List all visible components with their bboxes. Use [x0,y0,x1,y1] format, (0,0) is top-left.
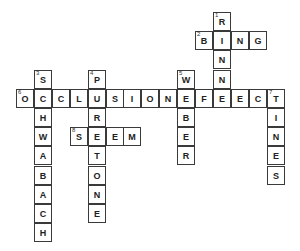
cell-letter: L [76,94,82,104]
cell-letter: O [146,94,153,104]
cell-letter: B [40,171,47,181]
crossword-cell[interactable]: S8 [70,127,88,146]
crossword-cell[interactable]: I [267,108,285,127]
crossword-cell[interactable]: N [231,31,249,50]
crossword-cell[interactable]: O6 [16,89,34,108]
crossword-cell[interactable]: I [213,31,231,50]
cell-letter: P [94,75,100,85]
crossword-cell[interactable]: N [213,50,231,69]
cell-letter: S [76,132,82,142]
crossword-cell[interactable]: S [267,166,285,185]
cell-letter: N [219,55,226,65]
cell-letter: C [58,94,65,104]
crossword-cell[interactable]: U [88,89,106,108]
crossword-cell[interactable]: B [34,166,52,185]
crossword-cell[interactable]: L [70,89,88,108]
cell-letter: H [40,228,47,238]
cell-letter: R [219,17,226,27]
crossword-cell[interactable]: W [34,127,52,146]
cell-letter: A [40,151,47,161]
clue-number: 7 [269,89,272,95]
crossword-cell[interactable]: E [88,204,106,223]
crossword-cell[interactable]: E [177,127,195,146]
clue-number: 3 [36,70,39,76]
crossword-cell[interactable]: E [267,146,285,165]
cell-letter: S [40,75,46,85]
cell-letter: S [112,94,118,104]
crossword-cell[interactable]: N [88,185,106,204]
cell-letter: C [255,94,262,104]
crossword-cell[interactable]: W5 [177,70,195,89]
crossword-cell[interactable]: E [231,89,249,108]
cell-letter: N [273,132,280,142]
cell-letter: R [183,151,190,161]
clue-number: 8 [72,127,75,133]
cell-letter: I [275,113,278,123]
cell-letter: T [94,151,100,161]
cell-letter: G [254,36,261,46]
cell-letter: N [237,36,244,46]
cell-letter: C [40,94,47,104]
cell-letter: M [128,132,136,142]
cell-letter: B [183,113,190,123]
cell-letter: I [221,36,224,46]
cell-letter: S [273,171,279,181]
cell-letter: W [39,132,48,142]
crossword-cell[interactable]: R [177,146,195,165]
crossword-cell[interactable]: C [34,204,52,223]
crossword-cell[interactable]: H [34,223,52,242]
cell-letter: N [165,94,172,104]
crossword-cell[interactable]: S3 [34,70,52,89]
cell-letter: O [93,171,100,181]
cell-letter: N [94,190,101,200]
crossword-cell[interactable]: E [177,89,195,108]
crossword-cell[interactable]: I [123,89,141,108]
cell-letter: O [21,94,28,104]
crossword-cell[interactable]: S [106,89,124,108]
crossword-cell[interactable]: R [88,108,106,127]
clue-number: 5 [179,70,182,76]
cell-letter: A [40,190,47,200]
crossword-cell[interactable]: F [195,89,213,108]
crossword-grid: R1INNEB2NGS3CHWABACHP4URETONEW5EBERO6CLS… [0,0,300,251]
crossword-cell[interactable]: B2 [195,31,213,50]
crossword-cell[interactable]: E [213,89,231,108]
cell-letter: R [94,113,101,123]
crossword-cell[interactable]: C [34,89,52,108]
crossword-cell[interactable]: T7 [267,89,285,108]
clue-number: 4 [90,70,93,76]
crossword-cell[interactable]: H [34,108,52,127]
crossword-cell[interactable]: R1 [213,12,231,31]
crossword-cell[interactable]: O [141,89,159,108]
crossword-cell[interactable]: B [177,108,195,127]
crossword-cell[interactable]: N [267,127,285,146]
cell-letter: B [201,36,208,46]
crossword-cell[interactable]: A [34,185,52,204]
crossword-cell[interactable]: E [88,127,106,146]
crossword-cell[interactable]: O [88,166,106,185]
cell-letter: E [183,94,189,104]
crossword-cell[interactable]: M [123,127,141,146]
cell-letter: E [94,209,100,219]
cell-letter: C [40,209,47,219]
crossword-cell[interactable]: C [249,89,267,108]
cell-letter: E [237,94,243,104]
crossword-cell[interactable]: N [159,89,177,108]
clue-number: 6 [18,89,21,95]
cell-letter: T [273,94,279,104]
crossword-cell[interactable]: G [249,31,267,50]
cell-letter: E [273,151,279,161]
cell-letter: W [182,75,191,85]
cell-letter: N [219,75,226,85]
cell-letter: I [131,94,134,104]
crossword-cell[interactable]: C [52,89,70,108]
clue-number: 2 [197,31,200,37]
crossword-cell[interactable]: P4 [88,70,106,89]
cell-letter: E [94,132,100,142]
crossword-cell[interactable]: A [34,146,52,165]
crossword-cell[interactable]: N [213,70,231,89]
crossword-cell[interactable]: T [88,146,106,165]
cell-letter: E [183,132,189,142]
crossword-cell[interactable]: E [106,127,124,146]
cell-letter: E [219,94,225,104]
